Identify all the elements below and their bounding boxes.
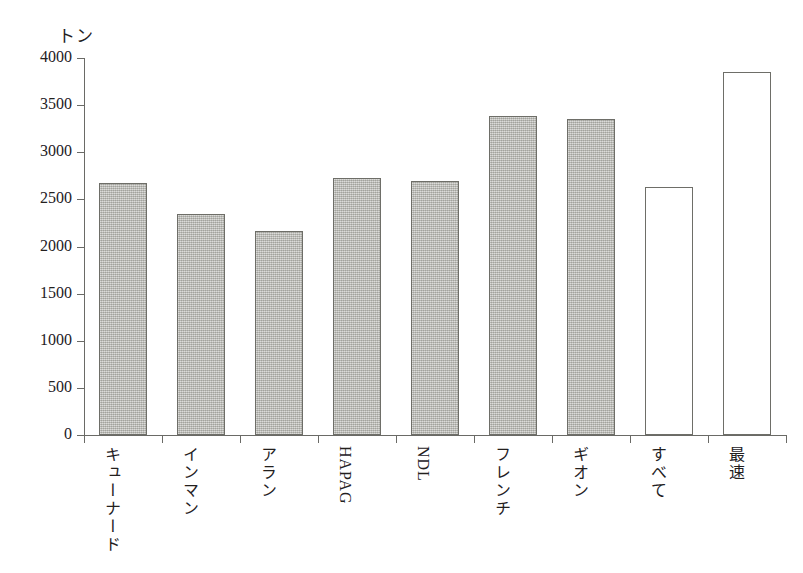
x-category-label-text: インマン [181,446,197,518]
y-tick-mark [77,388,85,389]
y-tick-label: 1000 [6,331,72,349]
x-category-label: すべて [649,446,689,500]
x-category-label-text: アラン [259,446,275,500]
x-tick-mark [708,435,709,443]
x-tick-mark [84,435,85,443]
x-tick-mark [474,435,475,443]
x-category-label-text: すべて [649,446,665,500]
x-tick-mark [162,435,163,443]
y-tick-mark [77,294,85,295]
bar [333,178,381,435]
y-tick-mark [77,199,85,200]
bar [645,187,693,435]
y-tick-mark [77,341,85,342]
y-tick-mark [77,152,85,153]
bar [567,119,615,435]
x-category-label-text: キューナード [103,446,119,554]
y-tick-label: 4000 [6,48,72,66]
x-category-label: フレンチ [493,446,533,518]
y-axis-unit-label: トン [58,22,94,47]
x-category-label-text: ギオン [571,446,587,500]
bar [723,72,771,435]
x-category-label-text: フレンチ [493,446,509,518]
y-tick-label: 1500 [6,284,72,302]
bar [255,231,303,435]
y-tick-mark [77,247,85,248]
y-tick-mark [77,58,85,59]
y-tick-mark [77,105,85,106]
x-tick-mark [318,435,319,443]
y-tick-label: 2000 [6,237,72,255]
bar [99,183,147,435]
x-category-label: NDL [415,446,455,482]
x-tick-mark [396,435,397,443]
y-tick-label: 500 [6,378,72,396]
y-tick-label: 0 [6,425,72,443]
x-category-label-text: NDL [415,446,431,482]
x-category-label-text: 最速 [727,446,743,482]
bar [489,116,537,435]
x-tick-mark [552,435,553,443]
y-tick-label: 3500 [6,95,72,113]
x-category-label-text: HAPAG [337,446,353,505]
x-category-label: HAPAG [337,446,377,505]
x-tick-mark [240,435,241,443]
y-tick-label: 3000 [6,142,72,160]
x-category-label: アラン [259,446,299,500]
x-category-label: キューナード [103,446,143,554]
x-category-label: ギオン [571,446,611,500]
x-category-label: インマン [181,446,221,518]
plot-area: 05001000150020002500300035004000 [84,58,786,435]
bar [411,181,459,435]
bar [177,214,225,435]
bar-chart: トン 05001000150020002500300035004000 キューナ… [0,0,803,573]
x-tick-mark [630,435,631,443]
x-category-label: 最速 [727,446,767,482]
y-tick-label: 2500 [6,189,72,207]
x-axis-line [84,435,786,436]
x-tick-mark [786,435,787,443]
